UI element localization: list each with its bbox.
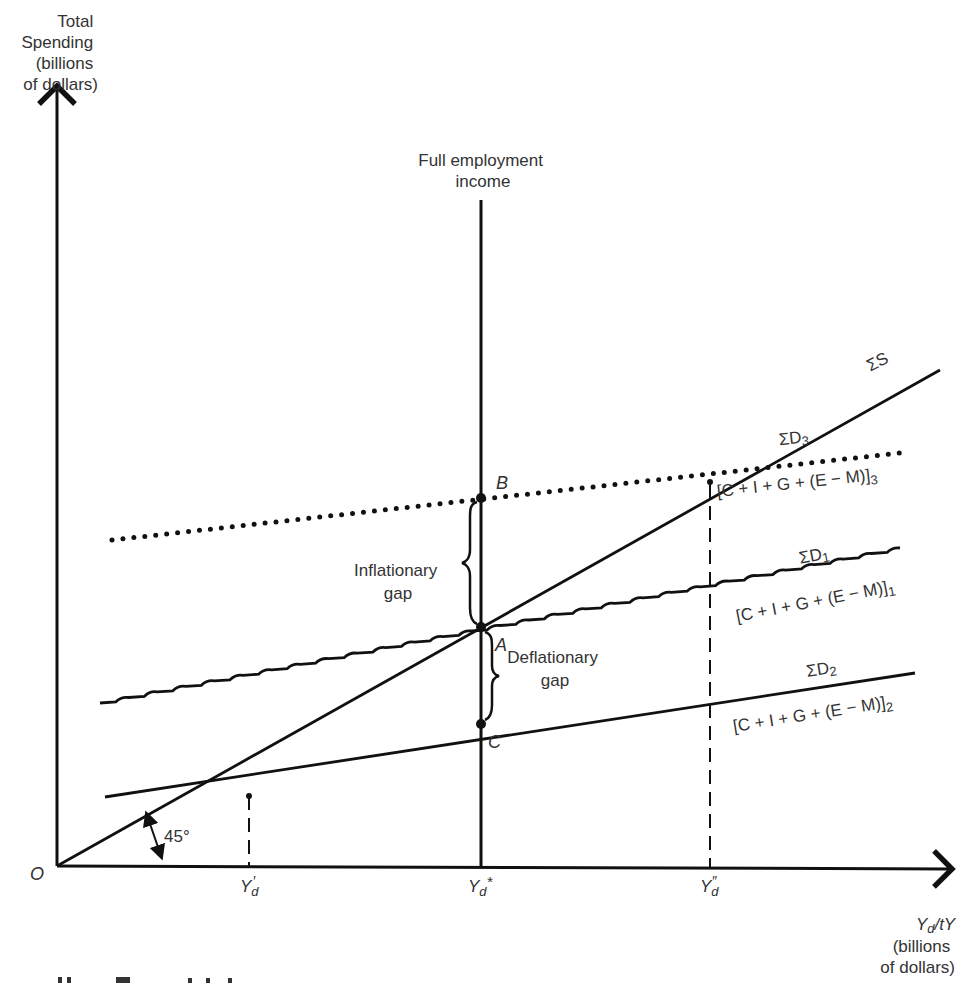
angle-label: 45° (164, 827, 190, 846)
tick-y-star: Yd* (468, 873, 494, 899)
point-a-label: A (494, 635, 507, 655)
x-axis-units: (billions of dollars) (880, 937, 955, 977)
svg-text:[C + I + G + (E − M)]1: [C + I + G + (E − M)]1 (734, 576, 896, 628)
tick-y-prime: Yd′ (240, 873, 259, 899)
sd3-line (112, 453, 900, 540)
inflationary-gap-label: Inflationary gap (354, 561, 442, 603)
point-c (476, 719, 486, 729)
sd3-label: ΣD3 [C + I + G + (E − M)]3 (711, 420, 878, 503)
sd2-label: ΣD2 [C + I + G + (E − M)]2 (725, 650, 894, 739)
angle-arrow-icon (148, 818, 160, 853)
x-axis-label: Y (944, 915, 957, 934)
svg-text:[C + I + G + (E − M)]3: [C + I + G + (E − M)]3 (716, 465, 879, 504)
sd1-line (100, 548, 900, 703)
point-a (476, 622, 486, 632)
intersection-y-double-prime (707, 479, 713, 485)
deflationary-gap-label: Deflationary gap (507, 648, 602, 690)
chart-canvas: Total Spending (billions of dollars) Y Y… (0, 0, 963, 983)
point-b-label: B (496, 473, 508, 493)
sd2-line (105, 673, 915, 797)
origin-label: O (30, 864, 44, 884)
sigma-s-label: ΣS (863, 348, 891, 375)
x-axis (57, 866, 952, 869)
svg-text:ΣD3: ΣD3 (778, 427, 810, 451)
point-b (476, 493, 486, 503)
intersection-y-prime (246, 793, 252, 799)
full-employment-label: Full employment income (418, 151, 547, 191)
sd1-label: ΣD1 [C + I + G + (E − M)]1 (726, 532, 897, 629)
svg-text:[C + I + G + (E − M)]2: [C + I + G + (E − M)]2 (732, 692, 895, 739)
x-axis-label-main: Yd/t (916, 915, 945, 936)
svg-text:ΣD2: ΣD2 (805, 657, 838, 682)
tick-y-double-prime: Yd″ (700, 873, 719, 899)
y-axis-label: Total Spending (billions of dollars) (21, 12, 98, 94)
point-c-label: C (488, 732, 502, 752)
inflationary-brace-icon (462, 502, 477, 624)
caption-fragment (58, 977, 232, 983)
